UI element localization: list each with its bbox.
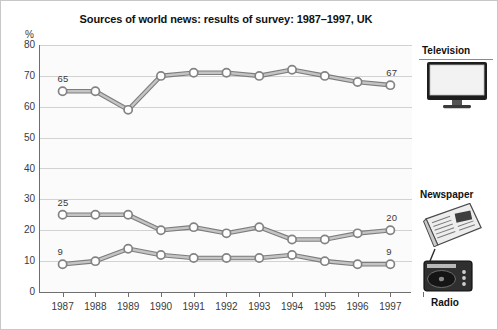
data-point-marker	[255, 223, 263, 231]
data-point-marker	[222, 229, 230, 237]
data-point-marker	[190, 254, 198, 262]
y-tick-80: 80	[5, 39, 35, 50]
start-label-radio: 9	[58, 246, 63, 257]
data-point-marker	[190, 223, 198, 231]
y-tick-20: 20	[5, 224, 35, 235]
data-point-marker	[157, 226, 165, 234]
end-label-radio: 9	[386, 246, 391, 257]
data-point-marker	[91, 257, 99, 265]
data-point-marker	[157, 251, 165, 259]
y-tick-40: 40	[5, 163, 35, 174]
chart-title: Sources of world news: results of survey…	[61, 13, 391, 25]
x-tick-1993	[259, 292, 260, 297]
x-tick-1994	[292, 292, 293, 297]
data-point-marker	[124, 211, 132, 219]
data-point-marker	[255, 254, 263, 262]
x-tick-1989	[128, 292, 129, 297]
data-point-marker	[288, 235, 296, 243]
series-lines	[39, 45, 411, 292]
chart-container: Sources of world news: results of survey…	[0, 0, 498, 330]
y-tick-30: 30	[5, 193, 35, 204]
data-point-marker	[255, 72, 263, 80]
data-point-marker	[91, 87, 99, 95]
data-point-marker	[222, 69, 230, 77]
data-point-marker	[91, 211, 99, 219]
radio-icon	[421, 247, 477, 299]
y-tick-10: 10	[5, 255, 35, 266]
end-label-television: 67	[386, 67, 397, 78]
data-point-marker	[222, 254, 230, 262]
x-tick-label-1997: 1997	[370, 301, 410, 312]
data-point-marker	[353, 229, 361, 237]
data-point-marker	[124, 245, 132, 253]
data-point-marker	[59, 260, 67, 268]
data-point-marker	[124, 106, 132, 114]
television-icon	[426, 61, 488, 113]
data-point-marker	[157, 72, 165, 80]
x-tick-1991	[194, 292, 195, 297]
data-point-marker	[386, 260, 394, 268]
legend-label-newspaper: Newspaper	[420, 189, 473, 200]
x-tick-1995	[325, 292, 326, 297]
x-tick-1997	[390, 292, 391, 297]
x-tick-1990	[161, 292, 162, 297]
start-label-newspaper: 25	[58, 197, 69, 208]
legend-label-radio: Radio	[431, 297, 459, 308]
data-point-marker	[386, 226, 394, 234]
newspaper-icon	[422, 203, 488, 251]
data-point-marker	[321, 235, 329, 243]
data-point-marker	[386, 81, 394, 89]
x-tick-1988	[95, 292, 96, 297]
y-tick-70: 70	[5, 70, 35, 81]
x-tick-1987	[63, 292, 64, 297]
data-point-marker	[321, 257, 329, 265]
data-point-marker	[190, 69, 198, 77]
legend-divider	[419, 59, 493, 60]
data-point-marker	[59, 211, 67, 219]
legend-label-television: Television	[422, 45, 470, 56]
y-tick-0: 0	[5, 286, 35, 297]
x-tick-1996	[358, 292, 359, 297]
y-axis-tick-labels: 80 70 60 50 40 30 20 10 0	[1, 45, 35, 292]
data-point-marker	[288, 251, 296, 259]
data-point-marker	[59, 87, 67, 95]
data-point-marker	[288, 66, 296, 74]
data-point-marker	[353, 78, 361, 86]
x-tick-1992	[226, 292, 227, 297]
y-tick-60: 60	[5, 101, 35, 112]
y-tick-50: 50	[5, 132, 35, 143]
end-label-newspaper: 20	[386, 212, 397, 223]
data-point-marker	[321, 72, 329, 80]
data-point-marker	[353, 260, 361, 268]
start-label-television: 65	[58, 73, 69, 84]
